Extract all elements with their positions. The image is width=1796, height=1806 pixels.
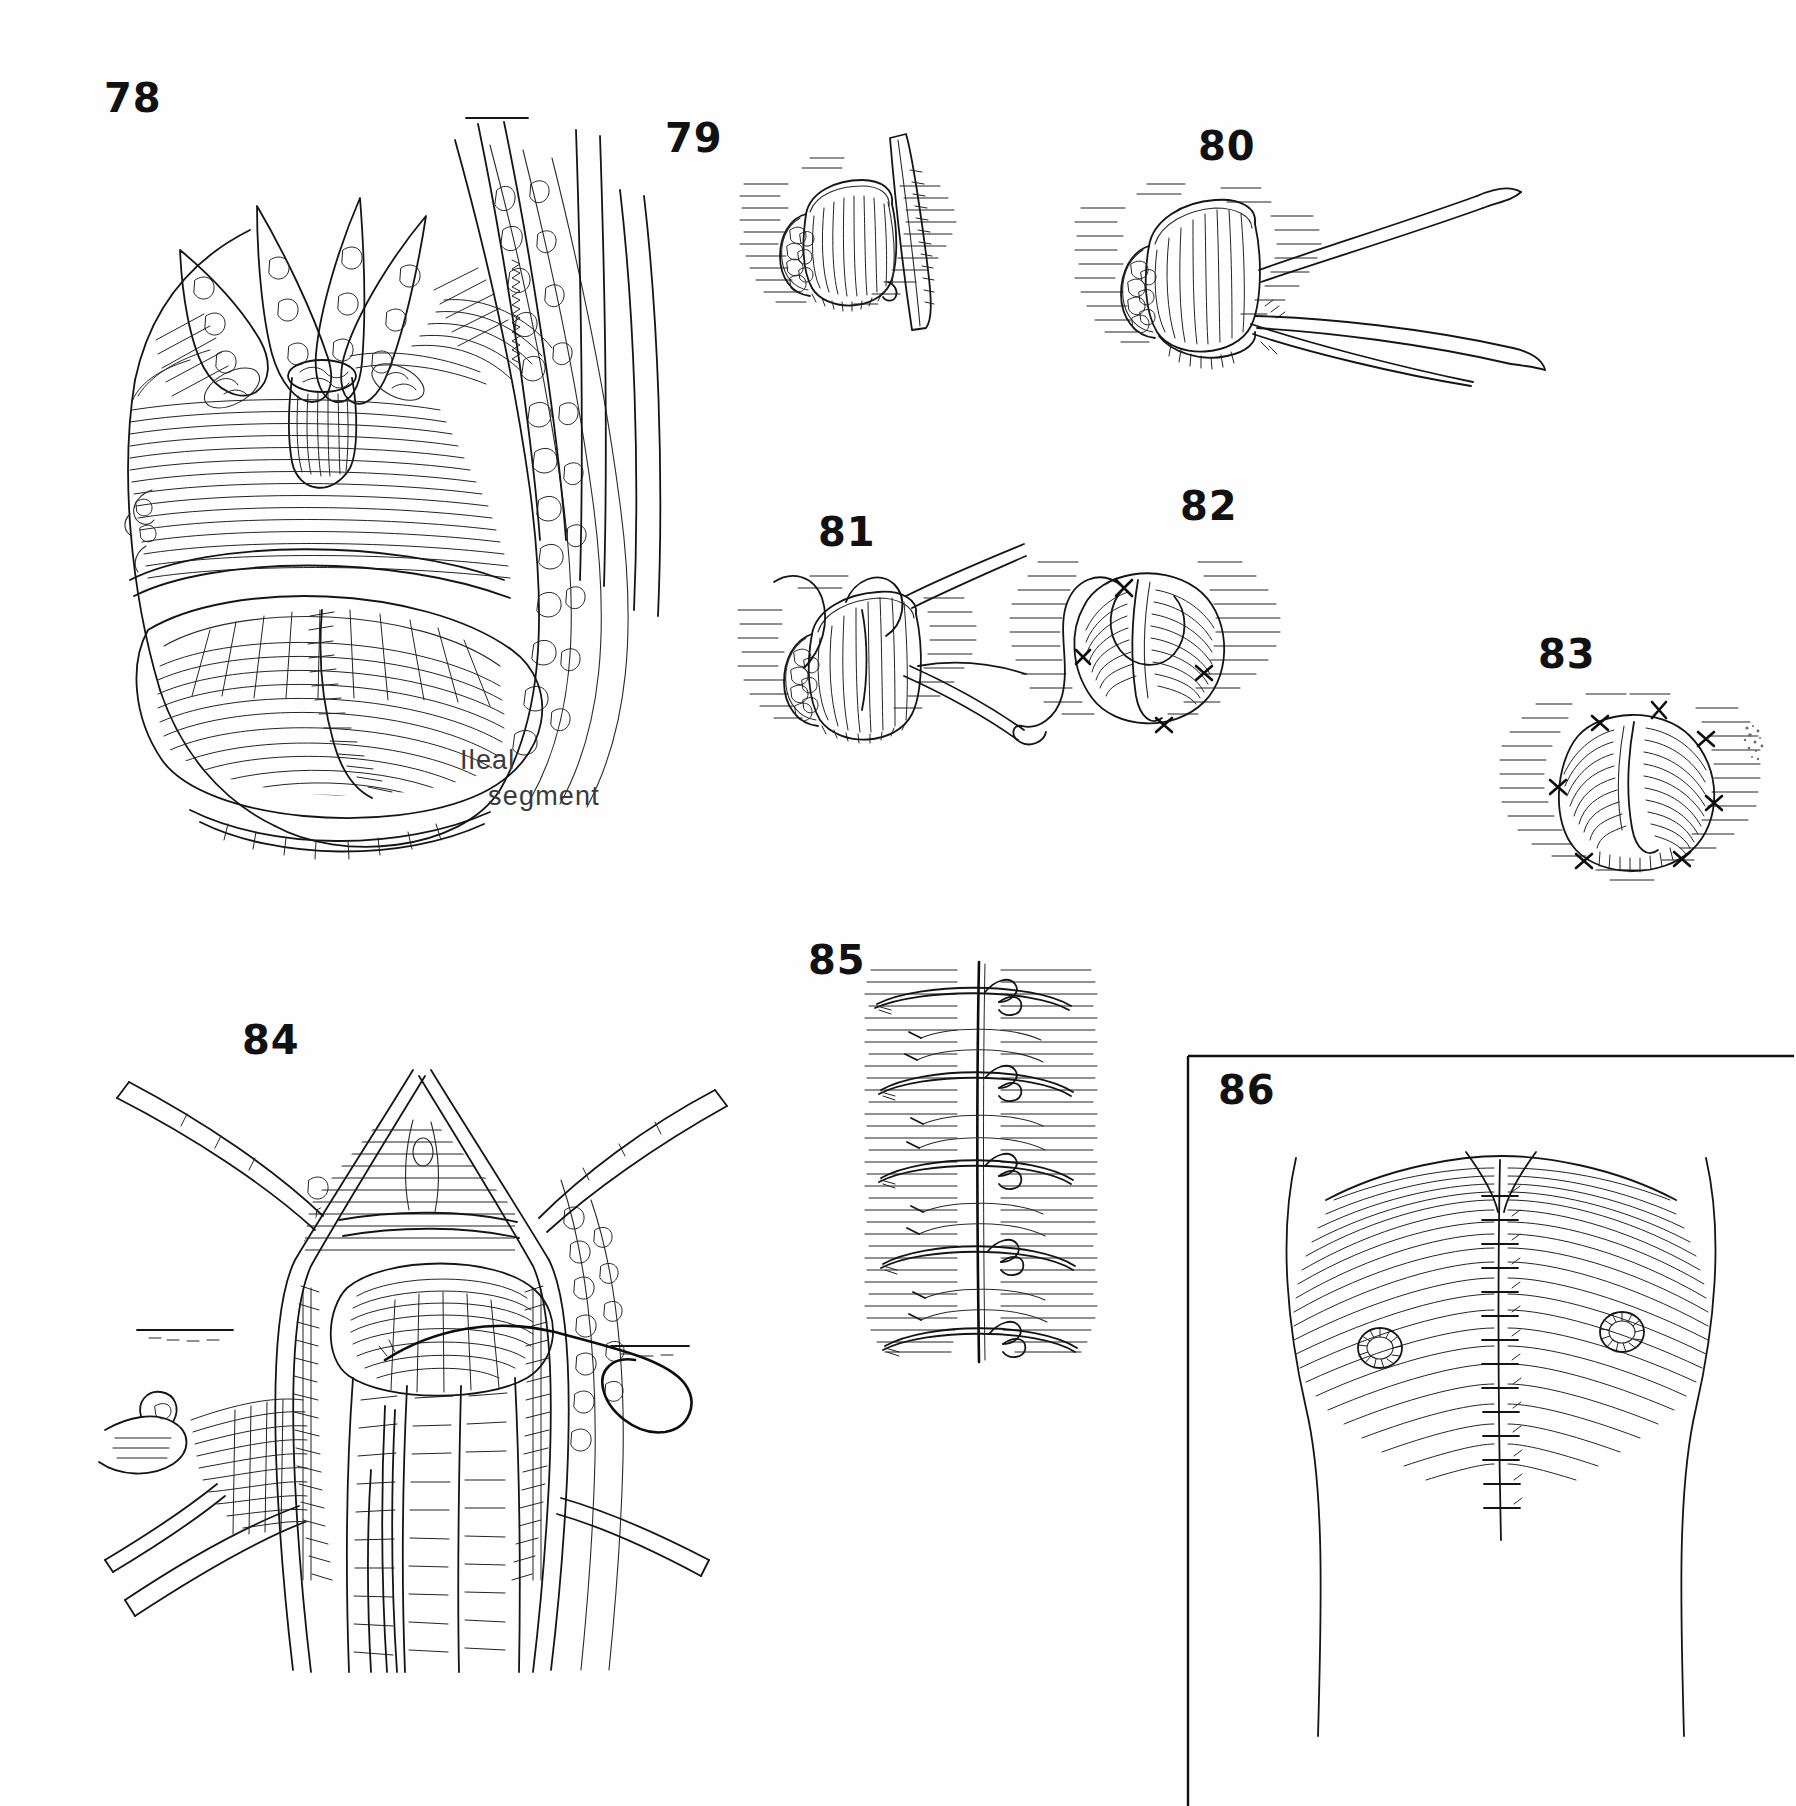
figure-number-85: 85 <box>808 940 866 980</box>
caption-line-1: Ileal <box>460 745 516 775</box>
figure-84-illustration <box>95 1060 735 1680</box>
figure-78-illustration <box>60 110 700 850</box>
figure-number-84: 84 <box>242 1020 300 1060</box>
figure-83-illustration <box>1500 690 1760 900</box>
figure-82-illustration <box>1010 546 1290 776</box>
figure-81-illustration <box>738 540 1028 760</box>
figure-80-illustration <box>1075 166 1575 386</box>
figure-number-80: 80 <box>1198 126 1256 166</box>
caption-line-2: segment <box>488 778 600 814</box>
figure-85-illustration <box>865 962 1125 1362</box>
figure-86-illustration <box>1230 1140 1770 1760</box>
figure-number-82: 82 <box>1180 486 1238 526</box>
figure-number-79: 79 <box>665 118 723 158</box>
figure-number-83: 83 <box>1538 634 1596 674</box>
figure-number-86: 86 <box>1218 1070 1276 1110</box>
figure-78-caption: Ileal segment <box>460 742 600 815</box>
ink-speckle <box>1738 722 1772 764</box>
figure-79-illustration <box>740 130 980 340</box>
